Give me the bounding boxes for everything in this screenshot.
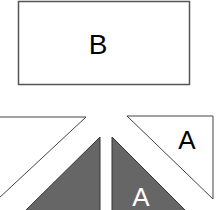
rectangle-b: B bbox=[19, 2, 190, 85]
triangle-label-a-dark: A bbox=[132, 182, 150, 210]
diagram-canvas: B A A bbox=[0, 0, 222, 210]
triangle-label-a-white: A bbox=[178, 125, 196, 155]
rectangle-label: B bbox=[89, 29, 108, 60]
